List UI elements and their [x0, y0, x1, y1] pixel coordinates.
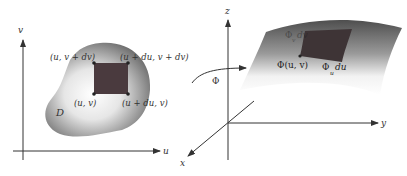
svg-text:u: u: [330, 69, 334, 76]
u-axis-label: u: [163, 146, 169, 156]
corner-top-right-label: (u + du, v + dv): [120, 52, 189, 62]
corner-bottom-right-label: (u + du, v): [122, 98, 168, 108]
x-axis-label: x: [180, 158, 185, 168]
phi-point-label: Φ(u, v): [277, 60, 308, 70]
svg-text:Φ: Φ: [322, 62, 329, 72]
region-label: D: [55, 107, 64, 118]
phi-map-label: Φ: [212, 76, 219, 86]
svg-text:dv: dv: [297, 30, 308, 40]
x-axis: [188, 101, 254, 156]
corner-bottom-left-label: (u, v): [74, 98, 96, 108]
patch-uv: [94, 63, 128, 94]
corner-top-left-label: (u, v + dv): [50, 52, 95, 62]
diagram-canvas: v u D (u, v + dv) (u + du, v + dv) (u, v…: [0, 0, 407, 176]
svg-text:du: du: [335, 62, 347, 72]
y-axis-label: y: [380, 118, 387, 128]
v-axis-label: v: [18, 25, 23, 35]
z-axis-label: z: [224, 6, 230, 16]
